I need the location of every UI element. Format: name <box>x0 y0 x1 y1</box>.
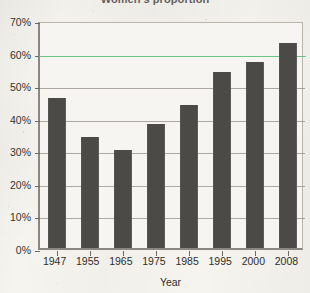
gridline <box>40 88 305 89</box>
y-axis-label: 30% <box>0 147 31 158</box>
bar <box>180 105 198 248</box>
y-axis-tick <box>35 153 40 154</box>
x-axis-label: 2008 <box>266 256 306 267</box>
y-axis-tick <box>35 23 40 24</box>
x-axis-title: Year <box>38 276 303 288</box>
y-axis-tick <box>35 88 40 89</box>
y-axis-label: 50% <box>0 82 31 93</box>
gridline <box>40 121 305 122</box>
y-axis-tick <box>35 251 40 252</box>
reference-line <box>39 56 306 57</box>
y-axis-tick <box>35 121 40 122</box>
y-axis-tick <box>35 186 40 187</box>
bar <box>279 43 297 248</box>
bar <box>147 124 165 248</box>
bar <box>213 72 231 248</box>
y-axis-tick <box>35 218 40 219</box>
bar <box>246 62 264 248</box>
bar <box>114 150 132 248</box>
chart-title: Women's proportion <box>0 0 310 5</box>
y-axis-label: 70% <box>0 17 31 28</box>
y-axis-label: 40% <box>0 115 31 126</box>
bar <box>81 137 99 248</box>
y-axis-label: 60% <box>0 50 31 61</box>
y-axis-label: 0% <box>0 245 31 256</box>
plot-area <box>38 22 303 250</box>
y-axis-label: 20% <box>0 180 31 191</box>
y-axis-label: 10% <box>0 212 31 223</box>
bar <box>48 98 66 248</box>
